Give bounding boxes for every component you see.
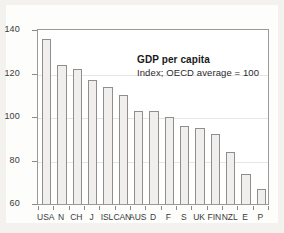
bar (103, 87, 113, 205)
bar (57, 65, 67, 204)
chart-card: 6080100120140 GDP per capita Index; OECD… (6, 5, 278, 223)
bar (195, 128, 205, 204)
chart-figure: 6080100120140 GDP per capita Index; OECD… (0, 0, 284, 233)
bar (257, 189, 267, 204)
bar (149, 111, 159, 205)
x-axis-tick-mark (53, 206, 58, 210)
annotation-title: GDP per capita (137, 53, 267, 66)
y-axis-tick-label: 140 (0, 25, 20, 34)
y-axis-tick-label: 60 (0, 199, 20, 208)
x-axis-tick-mark (222, 206, 227, 210)
bar (211, 134, 221, 204)
x-axis-tick-mark (38, 206, 43, 210)
x-axis-tick-mark (84, 206, 89, 210)
x-axis-tick-mark (176, 206, 181, 210)
x-axis-tick-mark (253, 206, 258, 210)
x-axis-tick-mark (237, 206, 242, 210)
x-axis-tick-mark (115, 206, 120, 210)
bar (88, 80, 98, 204)
x-axis-tick-mark (99, 206, 104, 210)
bar (134, 111, 144, 205)
chart-annotation: GDP per capita Index; OECD average = 100 (137, 53, 267, 79)
y-axis-tick-label: 120 (0, 69, 20, 78)
x-axis-tick-mark (191, 206, 196, 210)
bar (165, 117, 175, 204)
x-axis-tick-label: P (246, 212, 274, 222)
x-axis-tick-mark (130, 206, 135, 210)
y-axis-tick-label: 80 (0, 156, 20, 165)
bar (73, 69, 83, 204)
x-axis-tick-mark (207, 206, 212, 210)
x-axis-tick-mark (161, 206, 166, 210)
x-axis-tick-mark (268, 206, 273, 210)
bar (226, 152, 236, 204)
bar (42, 39, 52, 204)
bar (241, 174, 251, 205)
bar (119, 95, 129, 204)
bar (180, 126, 190, 204)
annotation-subtitle: Index; OECD average = 100 (137, 66, 267, 79)
y-axis-tick-label: 100 (0, 112, 20, 121)
x-axis-tick-mark (69, 206, 74, 210)
x-axis-tick-mark (145, 206, 150, 210)
